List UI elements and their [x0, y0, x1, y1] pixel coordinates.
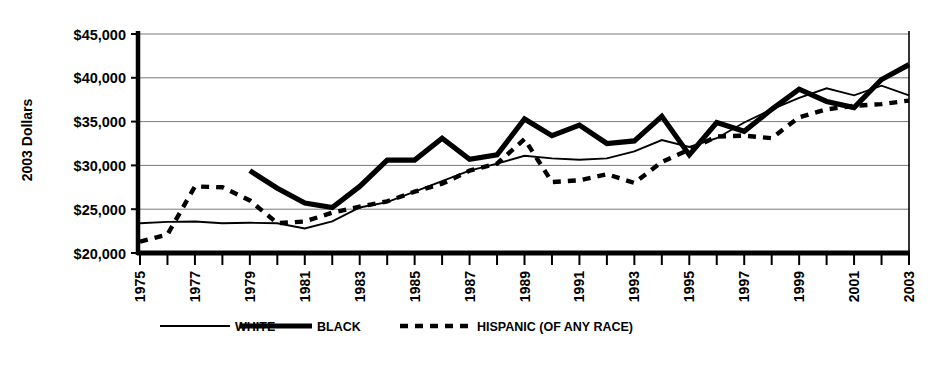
y-tick-label: $30,000 [74, 158, 126, 174]
x-tick-label: 1991 [571, 271, 587, 302]
x-tick-label: 1985 [407, 271, 423, 302]
x-tick-label: 1979 [242, 271, 258, 302]
income-by-race-line-chart: $20,000$25,000$30,000$35,000$40,000$45,0… [0, 0, 940, 365]
x-tick-label: 1999 [791, 271, 807, 302]
y-axis-title: 2003 Dollars [19, 99, 35, 182]
legend-label: BLACK [317, 320, 361, 334]
chart-container: $20,000$25,000$30,000$35,000$40,000$45,0… [0, 0, 940, 365]
x-tick-label: 1977 [187, 271, 203, 302]
chart-background [0, 0, 940, 365]
x-tick-label: 1993 [626, 271, 642, 302]
x-tick-label: 1983 [352, 271, 368, 302]
x-tick-label: 1975 [132, 271, 148, 302]
legend-label: HISPANIC (OF ANY RACE) [477, 320, 633, 334]
x-tick-label: 1995 [681, 271, 697, 302]
y-tick-label: $40,000 [74, 70, 126, 86]
y-tick-label: $25,000 [74, 202, 126, 218]
x-tick-label: 1997 [736, 271, 752, 302]
x-tick-labels-group: 1975197719791981198319851987198919911993… [132, 271, 917, 302]
x-tick-label: 1989 [517, 271, 533, 302]
y-tick-label: $35,000 [74, 114, 126, 130]
x-tick-label: 2001 [846, 271, 862, 302]
y-tick-label: $20,000 [74, 246, 126, 262]
x-tick-label: 2003 [901, 271, 917, 302]
y-tick-label: $45,000 [74, 27, 126, 43]
x-tick-label: 1987 [462, 271, 478, 302]
x-tick-label: 1981 [297, 271, 313, 302]
